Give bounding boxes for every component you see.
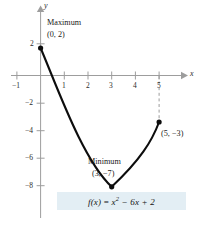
x-tick-label-3: 3 — [109, 81, 113, 90]
y-tick-label-neg8: −8 — [25, 181, 33, 190]
maximum-annotation-label: Maximum — [47, 18, 81, 27]
endpoint-point-label: (5, −3) — [161, 129, 183, 138]
formula-term3: + 2 — [142, 197, 155, 207]
y-tick-label-neg4: −4 — [25, 126, 33, 135]
maximum-point-marker — [38, 45, 43, 50]
x-tick-label-4: 4 — [133, 81, 137, 90]
endpoint-point-marker — [157, 119, 162, 124]
minimum-point-label: (3, −7) — [92, 169, 114, 178]
formula-term1-exponent: 2 — [116, 195, 119, 202]
y-tick-label-neg2: −2 — [25, 98, 33, 107]
graph-figure: y x −1 1 2 3 4 5 2 −2 −4 −6 −8 Maximum (… — [0, 0, 206, 225]
x-axis-label: x — [190, 69, 194, 78]
formula-lhs: f(x) — [88, 197, 101, 207]
minimum-point-marker — [109, 184, 114, 189]
y-axis — [37, 6, 45, 219]
x-tick-label-5: 5 — [157, 81, 161, 90]
y-tick-label-neg6: −6 — [25, 153, 33, 162]
minimum-annotation-label: Minimum — [88, 157, 121, 166]
x-tick-label-2: 2 — [86, 81, 90, 90]
function-formula: f(x) = x2 − 6x + 2 — [57, 195, 186, 207]
maximum-point-label: (0, 2) — [47, 30, 65, 39]
x-tick-label-1: 1 — [62, 81, 66, 90]
x-tick-label-neg1: −1 — [12, 81, 20, 90]
y-axis-label: y — [44, 1, 48, 10]
y-tick-label-2: 2 — [30, 39, 34, 48]
formula-term2: − 6x — [122, 197, 140, 207]
formula-equals: = — [104, 197, 109, 207]
x-axis — [11, 72, 188, 80]
